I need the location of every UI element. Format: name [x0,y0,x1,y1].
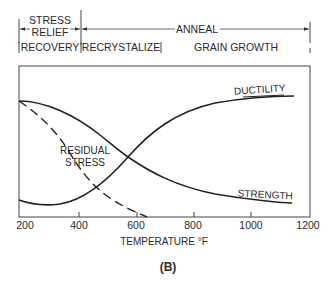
stress-relief-label-1: STRESS [29,14,71,26]
arrow-right-icon [75,27,80,30]
arrow-left-icon [20,27,25,30]
arrow-right-icon [304,27,309,30]
arrow-left-icon [82,27,87,30]
x-tick-1200: 1200 [296,219,320,231]
x-tick-1000: 1000 [239,219,263,231]
anneal-label: ANNEAL [176,23,218,35]
recrystalize-label: RECRYSTALIZE [82,41,160,53]
phase-header: STRESS RELIEF ANNEAL RECOVERY RECRYSTALI… [19,10,310,53]
figure-caption: (B) [160,260,177,274]
stress-relief-label-2: RELIEF [32,26,69,38]
x-tick-600: 600 [127,219,145,231]
ductility-label: DUCTILITY [234,82,287,97]
grain-growth-label: GRAIN GROWTH [194,41,278,53]
residual-stress-label-2: STRESS [65,157,105,168]
x-axis-label: TEMPERATURE °F [120,236,208,247]
x-tick-400: 400 [70,219,88,231]
annealing-chart: STRESS RELIEF ANNEAL RECOVERY RECRYSTALI… [0,0,333,286]
x-tick-200: 200 [16,219,34,231]
residual-stress-label-1: RESIDUAL [60,145,110,156]
recovery-label: RECOVERY [21,41,80,53]
x-tick-800: 800 [184,219,202,231]
